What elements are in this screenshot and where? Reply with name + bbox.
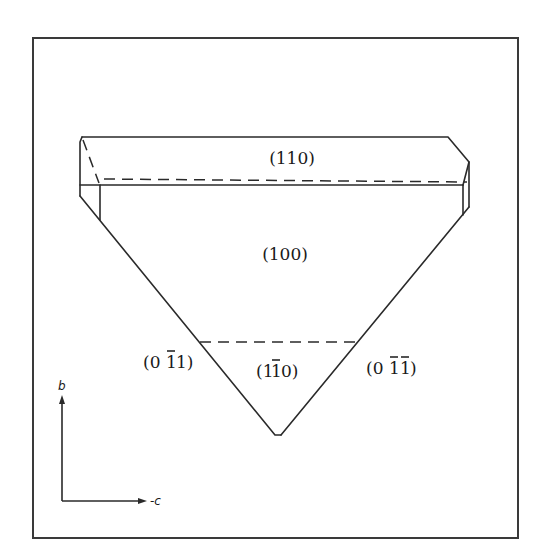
hidden-edges — [83, 140, 467, 342]
svg-text:1): 1) — [176, 352, 193, 372]
svg-text:(0: (0 — [143, 352, 160, 372]
right-diagonal-edge — [281, 207, 469, 435]
left-edge — [80, 137, 82, 196]
face-label-100: (100) — [262, 244, 308, 264]
svg-text:(0: (0 — [366, 358, 383, 378]
svg-text:0): 0) — [281, 361, 298, 381]
axes-indicator: b -c — [58, 379, 161, 508]
hidden-back-horizontal — [104, 179, 467, 182]
c-axis-label: -c — [150, 494, 161, 508]
svg-text:): ) — [410, 358, 417, 378]
figure-frame — [33, 38, 518, 538]
face-label-0-11: (0 1 1) — [143, 351, 193, 372]
b-axis-arrow-icon — [59, 395, 65, 404]
left-diagonal-edge — [80, 196, 281, 435]
face-label-0-1-1: (0 1 1 ) — [366, 357, 417, 378]
face-label-110: (110) — [269, 148, 315, 168]
c-axis-arrow-icon — [138, 498, 147, 504]
crystal-diagram: (110) (100) (1 1 0) (0 1 1) (0 1 1 ) b -… — [0, 0, 544, 559]
hidden-left-diagonal — [83, 140, 99, 183]
face-label-1-10: (1 1 0) — [256, 360, 298, 381]
svg-text:1: 1 — [389, 358, 400, 378]
b-axis-label: b — [58, 379, 66, 393]
